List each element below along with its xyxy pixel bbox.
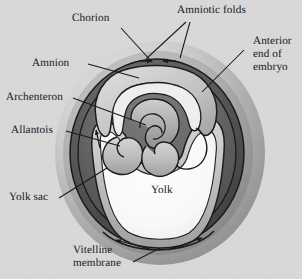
label-anterior-end-line3: embryo bbox=[253, 62, 288, 74]
label-yolk-sac: Yolk sac bbox=[9, 192, 48, 204]
label-chorion: Chorion bbox=[72, 13, 109, 25]
label-vitelline-line1: Vitelline bbox=[73, 245, 112, 257]
label-amnion: Amnion bbox=[32, 58, 69, 70]
label-anterior-end-line2: end of bbox=[253, 49, 282, 61]
label-allantois: Allantois bbox=[11, 125, 53, 137]
label-amniotic-folds: Amniotic folds bbox=[177, 5, 246, 17]
label-vitelline-line2: membrane bbox=[73, 258, 121, 270]
label-archenteron: Archenteron bbox=[6, 92, 63, 104]
label-anterior-end-line1: Anterior bbox=[253, 36, 292, 48]
label-yolk: Yolk bbox=[151, 185, 173, 197]
